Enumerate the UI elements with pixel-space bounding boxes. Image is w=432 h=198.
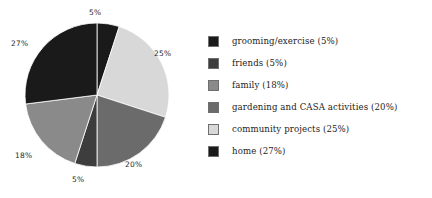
pie-slice-percentage-label: 25% bbox=[154, 50, 171, 58]
legend-item[interactable]: community projects (25%) bbox=[208, 118, 432, 140]
legend-item-label: home (27%) bbox=[232, 146, 285, 156]
chart-legend: grooming/exercise (5%)friends (5%)family… bbox=[208, 30, 432, 162]
pie-plot-area: 5%25%20%5%18%27% bbox=[0, 0, 200, 198]
pie-svg bbox=[0, 0, 200, 198]
pie-slice-group bbox=[25, 23, 169, 167]
legend-item-label: community projects (25%) bbox=[232, 124, 349, 134]
legend-color-swatch bbox=[208, 102, 219, 113]
legend-color-swatch bbox=[208, 80, 219, 91]
pie-slice[interactable] bbox=[25, 23, 97, 104]
legend-color-swatch bbox=[208, 36, 219, 47]
pie-slice-percentage-label: 5% bbox=[89, 9, 101, 17]
legend-item-label: friends (5%) bbox=[232, 58, 287, 68]
legend-item[interactable]: friends (5%) bbox=[208, 52, 432, 74]
pie-chart-figure: 5%25%20%5%18%27% grooming/exercise (5%)f… bbox=[0, 0, 432, 198]
pie-slice-percentage-label: 27% bbox=[11, 40, 28, 48]
legend-item[interactable]: grooming/exercise (5%) bbox=[208, 30, 432, 52]
pie-slice-percentage-label: 20% bbox=[125, 161, 142, 169]
legend-item-label: grooming/exercise (5%) bbox=[232, 36, 338, 46]
legend-item[interactable]: gardening and CASA activities (20%) bbox=[208, 96, 432, 118]
legend-color-swatch bbox=[208, 124, 219, 135]
legend-color-swatch bbox=[208, 146, 219, 157]
legend-item[interactable]: home (27%) bbox=[208, 140, 432, 162]
legend-item-label: family (18%) bbox=[232, 80, 289, 90]
pie-slice-percentage-label: 18% bbox=[15, 152, 32, 160]
legend-item[interactable]: family (18%) bbox=[208, 74, 432, 96]
legend-color-swatch bbox=[208, 58, 219, 69]
legend-item-label: gardening and CASA activities (20%) bbox=[232, 102, 397, 112]
pie-slice-percentage-label: 5% bbox=[72, 176, 84, 184]
